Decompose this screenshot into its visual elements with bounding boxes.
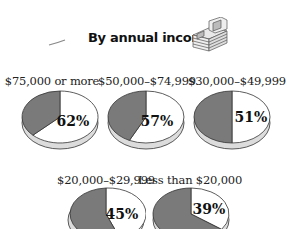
swoosh-decoration: [48, 39, 66, 47]
pie-label-50k-75k: $50,000–$74,999: [98, 74, 196, 88]
pie-label-75k-plus: $75,000 or more: [5, 74, 99, 88]
pie-value-20k-30k: 45%: [106, 206, 139, 222]
pie-value-50k-75k: 57%: [141, 113, 174, 129]
pie-value-30k-50k: 51%: [235, 109, 268, 125]
money-stack-icon: [191, 17, 229, 53]
pie-value-under-20k: 39%: [193, 201, 226, 217]
pie-value-75k-plus: 62%: [57, 113, 90, 129]
pie-label-30k-50k: $30,000–$49,999: [188, 74, 286, 88]
pie-label-under-20k: Less than $20,000: [138, 173, 242, 187]
